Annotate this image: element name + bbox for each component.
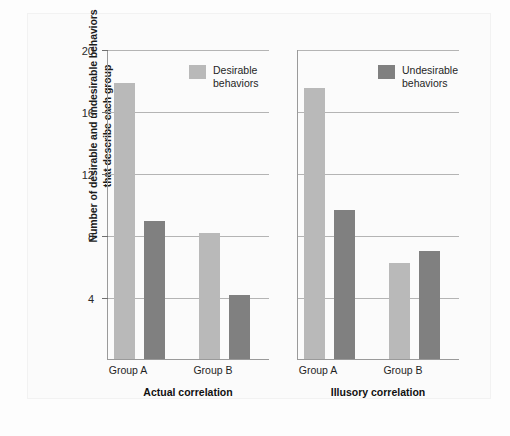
tick-12: 12 bbox=[102, 174, 108, 175]
tick-8: 8 bbox=[102, 236, 108, 237]
group-label-illusory-a: Group A bbox=[283, 364, 353, 376]
bar-actual-groupB-undesirable bbox=[229, 295, 250, 359]
chart-plate: Number of desirable and undesirable beha… bbox=[28, 14, 490, 398]
gridline-20 bbox=[108, 50, 269, 51]
group-label-actual-b: Group B bbox=[178, 364, 248, 376]
plot-area-illusory bbox=[297, 50, 459, 360]
bar-illusory-groupB-undesirable bbox=[419, 251, 440, 360]
bar-illusory-groupA-desirable bbox=[304, 88, 325, 359]
legend-undesirable: Undesirable behaviors bbox=[378, 64, 458, 91]
bar-actual-groupA-desirable bbox=[114, 83, 135, 359]
panel-illusory-correlation: Group A Group B Illusory correlation bbox=[297, 50, 459, 360]
tick-16: 16 bbox=[102, 112, 108, 113]
legend-swatch-undesirable-icon bbox=[378, 65, 395, 79]
panel-title-illusory: Illusory correlation bbox=[297, 386, 459, 398]
bar-actual-groupB-desirable bbox=[199, 233, 220, 359]
legend-label-undesirable: Undesirable behaviors bbox=[402, 64, 458, 91]
group-label-illusory-b: Group B bbox=[368, 364, 438, 376]
tick-label-20: 20 bbox=[82, 45, 94, 57]
gridline-20 bbox=[298, 50, 459, 51]
plot-area-actual: 20 16 12 8 4 bbox=[107, 50, 269, 360]
legend-desirable: Desirable behaviors bbox=[189, 64, 259, 91]
group-label-actual-a: Group A bbox=[93, 364, 163, 376]
legend-swatch-desirable-icon bbox=[189, 65, 206, 79]
bar-actual-groupA-undesirable bbox=[144, 221, 165, 359]
tick-label-8: 8 bbox=[88, 231, 94, 243]
chart-figure: Number of desirable and undesirable beha… bbox=[0, 0, 510, 436]
tick-label-16: 16 bbox=[82, 107, 94, 119]
bar-illusory-groupB-desirable bbox=[389, 263, 410, 359]
tick-label-12: 12 bbox=[82, 169, 94, 181]
panel-title-actual: Actual correlation bbox=[107, 386, 269, 398]
tick-20: 20 bbox=[102, 50, 108, 51]
panel-actual-correlation: 20 16 12 8 4 Group A G bbox=[107, 50, 269, 360]
tick-label-4: 4 bbox=[88, 293, 94, 305]
legend-label-desirable: Desirable behaviors bbox=[213, 64, 259, 91]
bar-illusory-groupA-undesirable bbox=[334, 210, 355, 359]
tick-4: 4 bbox=[102, 298, 108, 299]
